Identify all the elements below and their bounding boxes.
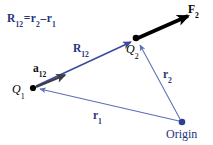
position1-sub: 1 bbox=[98, 117, 102, 126]
vector-diagram-figure: R12=r2–r1 F2 R12 a12 Q1 Q2 r2 r1 Origin bbox=[0, 0, 213, 145]
equation-term2-sub: 1 bbox=[52, 20, 56, 29]
charge1-sub: 1 bbox=[21, 92, 25, 101]
charge2-symbol: Q bbox=[126, 42, 135, 56]
unit-vector-symbol: a bbox=[33, 62, 39, 74]
point-q1 bbox=[30, 85, 36, 91]
unit-vector-label: a12 bbox=[33, 63, 46, 75]
point-origin bbox=[179, 119, 186, 126]
equation-term1-sub: 2 bbox=[36, 20, 40, 29]
charge1-label: Q1 bbox=[12, 83, 25, 95]
position-vector1-label: r1 bbox=[93, 110, 102, 122]
equation-minus: – bbox=[40, 12, 47, 24]
vector-line-f2 bbox=[138, 16, 188, 38]
equation-equals: = bbox=[23, 12, 31, 24]
charge2-sub: 2 bbox=[135, 52, 139, 61]
position-vector2-label: r2 bbox=[163, 69, 172, 81]
point-q2 bbox=[133, 35, 140, 42]
force-symbol: F bbox=[188, 3, 195, 15]
charge2-label: Q2 bbox=[126, 43, 139, 55]
origin-label: Origin bbox=[166, 128, 197, 140]
separation-sub: 12 bbox=[81, 50, 89, 59]
force-vector-label: F2 bbox=[188, 4, 199, 16]
vector-line-r1 bbox=[40, 89, 179, 121]
force-sub: 2 bbox=[195, 11, 199, 20]
equation-label: R12=r2–r1 bbox=[7, 13, 56, 25]
vector-line-r2 bbox=[140, 45, 180, 119]
position2-sub: 2 bbox=[168, 76, 172, 85]
equation-lhs-sub: 12 bbox=[15, 20, 23, 29]
charge1-symbol: Q bbox=[12, 82, 21, 96]
unit-vector-sub: 12 bbox=[39, 70, 47, 79]
separation-vector-label: R12 bbox=[73, 43, 89, 55]
